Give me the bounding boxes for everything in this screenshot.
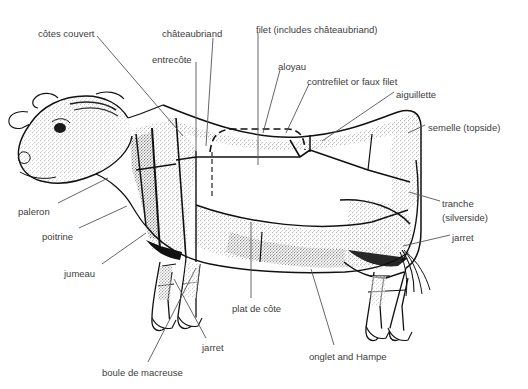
label-chateaubriand: châteaubriand: [162, 28, 222, 39]
label-jarret-front: jarret: [202, 342, 224, 353]
label-paleron: paleron: [18, 206, 50, 217]
label-silverside: (silverside): [442, 212, 488, 223]
leader-jumeau: [102, 233, 146, 264]
label-jumeau: jumeau: [64, 268, 95, 279]
label-aloyau: aloyau: [278, 61, 306, 72]
label-jarret-rear: jarret: [452, 232, 474, 243]
beef-cuts-diagram: côtes couvertchâteaubriandfilet (include…: [0, 0, 528, 389]
label-boule: boule de macreuse: [102, 367, 183, 378]
label-poitrine: poitrine: [42, 231, 73, 242]
label-cotes-couvert: côtes couvert: [38, 28, 95, 39]
label-plat-de-cote: plat de côte: [232, 303, 281, 314]
label-filet: filet (includes châteaubriand): [256, 24, 377, 35]
label-tranche: tranche: [442, 198, 474, 209]
label-semelle: semelle (topside): [428, 122, 500, 133]
label-onglet-hampe: onglet and Hampe: [309, 351, 387, 362]
leader-aloyau: [263, 70, 280, 133]
label-entrecote: entrecôte: [152, 54, 192, 65]
cow-illustration: [0, 0, 528, 389]
label-aiguillette: aiguillette: [396, 89, 436, 100]
leader-contrefilet: [286, 84, 309, 133]
label-contrefilet: contrefilet or faux filet: [307, 76, 397, 87]
leader-poitrine: [79, 206, 127, 228]
cow-body-artwork: [9, 88, 440, 350]
leader-onglet-hampe: [311, 269, 334, 345]
